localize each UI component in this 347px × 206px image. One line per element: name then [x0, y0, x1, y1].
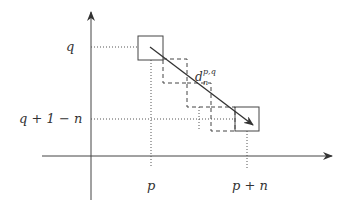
label-p-plus-n: p + n: [232, 178, 268, 193]
diagonal-arrow: [150, 47, 253, 125]
label-q-plus-1-minus-n: q + 1 − n: [19, 111, 82, 126]
end-square: [235, 107, 259, 131]
dashed-square-1: [163, 59, 187, 83]
label-p: p: [147, 178, 156, 193]
diagram-canvas: q q + 1 − n p p + n d p,q n: [0, 0, 347, 206]
arrow-label-sub: n: [203, 78, 208, 87]
arrow-label-sup: p,q: [203, 67, 216, 76]
label-q: q: [66, 39, 74, 54]
arrow-label-base: d: [195, 70, 203, 84]
